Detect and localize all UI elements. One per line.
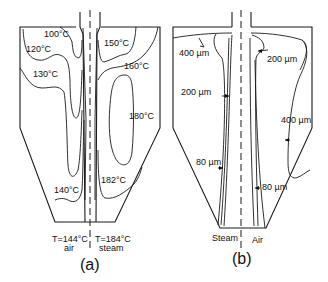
panel-a-caption: (a) [80, 256, 100, 273]
label-150c: 150°C [104, 38, 130, 48]
label-140c: 140°C [54, 185, 80, 195]
label-200um-top-right: 200 µm [267, 54, 297, 64]
size-contour-200-right [252, 35, 264, 226]
label-130c: 130°C [33, 69, 59, 79]
label-182c: 182°C [101, 175, 127, 185]
label-air: Air [252, 235, 263, 245]
label-80um-left: 80 µm [196, 157, 221, 167]
label-180c: 180°C [129, 111, 155, 121]
size-contour-top-left [173, 33, 232, 38]
panel-a-vortex-finder-left [80, 12, 85, 222]
label-200um-mid-left: 200 µm [181, 87, 211, 97]
size-contour-80-right [255, 60, 265, 228]
label-400um-mid-right: 400 µm [281, 115, 311, 125]
inlet-steam-medium: steam [99, 243, 124, 253]
cyclone-diagram: 100°C 120°C 130°C 140°C 150°C 160°C 180°… [0, 0, 328, 282]
panel-b: 400 µm 200 µm 200 µm 400 µm 80 µm 80 µm … [173, 10, 312, 267]
label-steam: Steam [212, 233, 238, 243]
label-400um-top-left: 400 µm [179, 48, 209, 58]
label-80um-right: 80 µm [262, 182, 287, 192]
contour-130 [20, 68, 82, 176]
label-120c: 120°C [26, 44, 52, 54]
panel-b-caption: (b) [232, 250, 252, 267]
panel-a: 100°C 120°C 130°C 140°C 150°C 160°C 180°… [20, 10, 160, 273]
label-100c: 100°C [44, 29, 70, 39]
label-160c: 160°C [124, 61, 150, 71]
inlet-air-medium: air [64, 243, 74, 253]
